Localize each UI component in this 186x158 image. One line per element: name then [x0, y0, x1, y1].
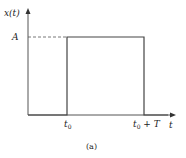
- pulse-signal: [28, 37, 168, 115]
- y-axis-arrow-icon: [26, 8, 31, 14]
- x-axis-label: t: [169, 120, 173, 130]
- figure-caption: (a): [86, 142, 97, 151]
- y-axis-label: x(t): [4, 8, 20, 18]
- amplitude-label: A: [11, 32, 19, 42]
- x-axis-arrow-icon: [170, 113, 176, 118]
- start-time-label: t0: [64, 119, 72, 130]
- end-time-label: t0 + T: [133, 119, 161, 130]
- pulse-diagram: x(t) A t0 t0 + T t (a): [0, 0, 186, 158]
